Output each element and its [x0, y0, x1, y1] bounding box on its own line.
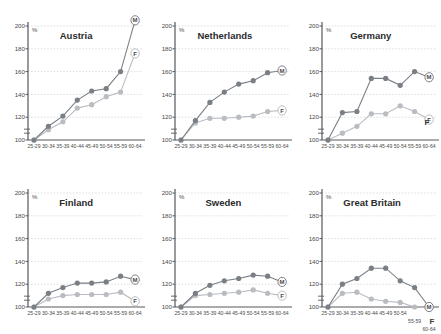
data-point-m: [46, 291, 51, 296]
x-axis-tick-label: 60-64: [423, 326, 436, 332]
x-axis-tick-label: 50-54: [394, 310, 407, 316]
plot-area: 10012014016018020025-2930-3435-3940-4445…: [294, 167, 441, 334]
y-axis-tick-label: 160: [309, 235, 320, 242]
plot-area: 10012014016018020025-2930-3435-3940-4445…: [147, 167, 294, 334]
y-axis-unit-label: %: [179, 27, 184, 33]
data-point-f: [340, 291, 345, 296]
data-point-f: [354, 124, 359, 129]
data-point-m: [118, 274, 123, 279]
y-axis-unit-label: %: [326, 27, 331, 33]
data-point-m: [265, 70, 270, 75]
data-point-m: [236, 82, 241, 87]
x-axis-tick-label: 50-54: [394, 143, 407, 149]
x-axis-tick-label: 25-29: [321, 143, 334, 149]
data-point-m: [340, 282, 345, 287]
x-axis-tick-label: 45-49: [232, 143, 245, 149]
y-axis-tick-label: 200: [15, 22, 26, 29]
x-axis-tick-label: 35-39: [350, 143, 363, 149]
data-point-m: [89, 281, 94, 286]
x-axis-tick-label: 30-34: [189, 310, 202, 316]
x-axis-tick-label: 40-44: [71, 310, 84, 316]
data-point-f: [60, 293, 65, 298]
x-axis-tick-label: 25-29: [174, 143, 187, 149]
x-axis-tick-label: 55-59: [114, 143, 127, 149]
panel-title: Finland: [59, 197, 93, 208]
data-point-f: [412, 304, 417, 309]
data-point-m: [178, 137, 183, 142]
data-point-f: [354, 290, 359, 295]
data-point-m: [207, 100, 212, 105]
x-axis-tick-label: 50-54: [247, 143, 260, 149]
y-axis-tick-label: 160: [15, 235, 26, 242]
panel-title: Austria: [60, 30, 93, 41]
data-point-m: [369, 76, 374, 81]
data-point-m: [354, 109, 359, 114]
data-point-f: [236, 115, 241, 120]
endpoint-letter: F: [133, 298, 137, 304]
x-axis-tick-label: 55-59: [114, 310, 127, 316]
y-axis-tick-label: 100: [309, 303, 320, 310]
data-point-f: [75, 106, 80, 111]
data-point-m: [251, 273, 256, 278]
data-point-m: [383, 266, 388, 271]
data-point-f: [207, 116, 212, 121]
y-axis-tick-label: 140: [309, 258, 320, 265]
series-endpoint-marker-m: M: [131, 16, 139, 25]
data-point-f: [222, 116, 227, 121]
plot-area: 10012014016018020025-2930-3435-3940-4445…: [294, 0, 441, 167]
y-axis-tick-label: 140: [15, 258, 26, 265]
data-point-m: [31, 137, 36, 142]
data-point-m: [340, 110, 345, 115]
endpoint-letter: F: [280, 293, 284, 299]
plot-area: 10012014016018020025-2930-3435-3940-4445…: [147, 0, 294, 167]
endpoint-letter: F: [133, 51, 137, 57]
x-axis-tick-label: 60-64: [276, 143, 289, 149]
x-axis-tick-label: 35-39: [203, 310, 216, 316]
endpoint-letter: M: [280, 279, 285, 285]
series-endpoint-marker-f: F: [278, 291, 286, 300]
y-axis-tick-label: 160: [309, 68, 320, 75]
x-axis-tick-label: 50-54: [100, 310, 113, 316]
series-endpoint-marker-m: M: [425, 73, 433, 82]
data-point-f: [118, 290, 123, 295]
series-endpoint-marker-f: F: [131, 49, 139, 58]
y-axis-tick-label: 140: [309, 91, 320, 98]
data-point-m: [412, 69, 417, 74]
data-point-m: [89, 88, 94, 93]
y-axis-tick-label: 120: [162, 280, 173, 287]
panel-svg: 10012014016018020025-2930-3435-3940-4445…: [294, 167, 441, 334]
data-point-m: [383, 76, 388, 81]
y-axis-tick-label: 200: [15, 189, 26, 196]
y-axis-tick-label: 120: [15, 113, 26, 120]
x-axis-tick-label: 25-29: [321, 310, 334, 316]
data-point-m: [104, 279, 109, 284]
y-axis-tick-label: 160: [162, 235, 173, 242]
data-point-f: [222, 291, 227, 296]
x-axis-tick-label: 30-34: [42, 143, 55, 149]
chart-panel-great-britain: 10012014016018020025-2930-3435-3940-4445…: [294, 167, 441, 334]
y-axis-tick-label: 120: [15, 280, 26, 287]
chart-panel-netherlands: 10012014016018020025-2930-3435-3940-4445…: [147, 0, 294, 167]
y-axis-tick-label: 200: [309, 22, 320, 29]
female-series-annotation: F: [430, 317, 435, 326]
data-point-m: [369, 266, 374, 271]
x-axis-tick-label: 50-54: [100, 143, 113, 149]
data-point-m: [193, 291, 198, 296]
panel-title: Sweden: [205, 197, 241, 208]
data-point-m: [222, 278, 227, 283]
y-axis-tick-label: 180: [15, 212, 26, 219]
panel-svg: 10012014016018020025-2930-3435-3940-4445…: [0, 0, 147, 167]
data-point-m: [60, 285, 65, 290]
y-axis-tick-label: 140: [15, 91, 26, 98]
y-axis-tick-label: 160: [15, 68, 26, 75]
y-axis-tick-label: 200: [309, 189, 320, 196]
data-point-f: [412, 109, 417, 114]
endpoint-letter: F: [280, 108, 284, 114]
data-point-f: [89, 102, 94, 107]
series-line-m: [328, 72, 429, 140]
panel-title: Germany: [350, 30, 391, 41]
data-point-m: [118, 69, 123, 74]
plot-area: 10012014016018020025-2930-3435-3940-4445…: [0, 0, 147, 167]
chart-panel-sweden: 10012014016018020025-2930-3435-3940-4445…: [147, 167, 294, 334]
y-axis-tick-label: 180: [15, 45, 26, 52]
